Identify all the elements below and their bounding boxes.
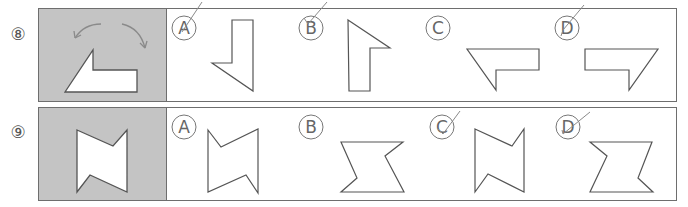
option-8b[interactable]: B [299,16,390,91]
given-shape-9 [77,130,127,192]
option-8c[interactable]: C [426,16,539,90]
rotate-arrows-icon [74,24,147,48]
option-8d[interactable]: D [555,16,658,90]
figures-layer: A B C D A B C D [0,0,688,207]
option-9c[interactable]: C [430,115,524,192]
option-9a[interactable]: A [172,115,258,193]
option-label: A [178,117,190,137]
given-shape-8 [65,50,137,92]
option-label: C [436,117,448,137]
option-label: B [305,117,317,137]
option-8a[interactable]: A [172,16,253,91]
pen-check-marks-8 [182,2,584,36]
option-label: C [432,18,444,38]
option-9b[interactable]: B [299,115,404,192]
option-label: D [560,18,573,38]
option-9d[interactable]: D [556,115,653,192]
